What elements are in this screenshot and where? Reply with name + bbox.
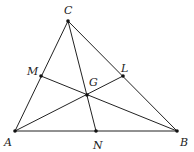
label-c: C (64, 4, 73, 17)
point-b (175, 129, 179, 133)
label-g: G (89, 76, 98, 89)
median-al (15, 76, 123, 131)
label-b: B (179, 136, 188, 149)
label-a: A (3, 136, 12, 149)
label-m: M (26, 65, 39, 78)
point-a (13, 129, 17, 133)
point-g (85, 93, 89, 97)
point-c (66, 19, 70, 23)
median-bm (41, 76, 177, 131)
label-l: L (120, 62, 128, 75)
label-n: N (92, 139, 103, 152)
point-n (94, 129, 98, 133)
triangle-diagram: C A B N M L G (0, 0, 194, 152)
point-m (39, 74, 43, 78)
